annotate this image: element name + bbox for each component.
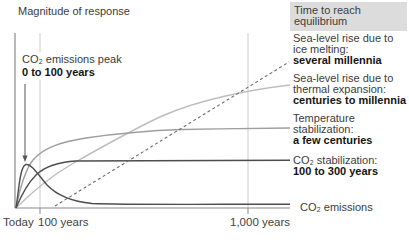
annotation-line-1: CO₂ emissions peak (22, 53, 122, 66)
ice-melting-dashed-curve (55, 62, 289, 206)
legend-text: CO₂ emissions (300, 202, 373, 213)
annotation-line-2: 0 to 100 years (22, 66, 122, 79)
emissions-peak-annotation: CO₂ emissions peak 0 to 100 years (22, 52, 124, 80)
x-label-100-years: 100 years (38, 216, 89, 229)
legend-item-thermal-expansion: Sea-level rise due to thermal expansion:… (293, 73, 406, 106)
thermal-expansion-curve (16, 85, 290, 208)
figure-time-to-reach-equilibrium: Magnitude of response CO₂ emissions peak… (0, 0, 409, 243)
y-axis-title: Magnitude of response (18, 5, 130, 18)
legend-header-line-2: equilibrium (294, 16, 407, 27)
legend-header-box: Time to reach equilibrium (290, 2, 407, 31)
co2-stabilization-curve (16, 160, 290, 208)
x-label-today: Today (3, 216, 34, 229)
x-label-1000-years: 1,000 years (230, 216, 290, 229)
legend-item-ice-melting: Sea-level rise due to ice melting: sever… (293, 33, 393, 66)
legend-item-temperature-stabilization: Temperature stabilization: a few centuri… (293, 113, 372, 146)
x-axis-ticks (40, 208, 248, 214)
emissions-peak-arrowhead-icon (22, 156, 27, 163)
legend-item-co2-emissions: CO₂ emissions (300, 202, 373, 213)
legend-equilibrium-time: centuries to millennia (293, 95, 406, 106)
co2-emissions-curve (16, 164, 290, 208)
temperature-stabilization-curve (16, 128, 290, 208)
legend-equilibrium-time: 100 to 300 years (293, 166, 378, 177)
legend-item-co2-stabilization: CO₂ stabilization: 100 to 300 years (293, 155, 378, 177)
legend-equilibrium-time: several millennia (293, 55, 393, 66)
legend-equilibrium-time: a few centuries (293, 135, 372, 146)
